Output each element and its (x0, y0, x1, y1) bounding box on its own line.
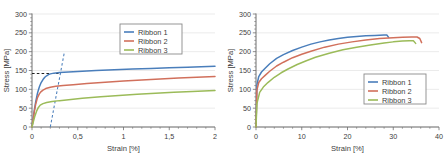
series-line-1 (32, 66, 215, 127)
series-line-2 (32, 77, 215, 127)
y-tick-label-4: 200 (239, 47, 251, 56)
y-tick-label-5: 250 (239, 28, 251, 37)
y-axis-title: Stress [MPa] (2, 49, 11, 92)
x-axis-title: Strain [%] (331, 144, 364, 153)
x-tick-label-2: 1 (122, 132, 126, 141)
stress-strain-figure: 05010015020025030000,511,52Strain [%]Str… (0, 0, 448, 163)
legend-label-2: Ribbon 2 (382, 87, 412, 96)
y-tick-label-3: 150 (239, 66, 251, 75)
legend-label-3: Ribbon 3 (138, 46, 168, 55)
y-tick-label-2: 100 (15, 85, 27, 94)
y-tick-label-0: 0 (247, 123, 251, 132)
x-tick-label-2: 20 (344, 132, 352, 141)
y-axis-title: Stress [MPa] (226, 49, 235, 92)
x-axis-title: Strain [%] (107, 144, 140, 153)
left-chart-svg: 05010015020025030000,511,52Strain [%]Str… (0, 0, 224, 163)
y-tick-label-3: 150 (15, 66, 27, 75)
chart-panel-right: 050100150200250300010203040Strain [%]Str… (224, 0, 448, 163)
y-tick-label-0: 0 (23, 123, 27, 132)
legend-label-2: Ribbon 2 (138, 37, 168, 46)
y-tick-label-5: 250 (15, 28, 27, 37)
legend-label-1: Ribbon 1 (138, 28, 168, 37)
x-tick-label-3: 30 (389, 132, 397, 141)
x-tick-label-3: 1,5 (164, 132, 174, 141)
x-tick-label-1: 0,5 (73, 132, 83, 141)
legend-label-3: Ribbon 3 (382, 96, 412, 105)
legend-label-1: Ribbon 1 (382, 78, 412, 87)
x-tick-label-0: 0 (254, 132, 258, 141)
y-tick-label-4: 200 (15, 47, 27, 56)
x-tick-label-1: 10 (298, 132, 306, 141)
right-chart-svg: 050100150200250300010203040Strain [%]Str… (224, 0, 448, 163)
series-line-3 (32, 90, 215, 127)
y-tick-label-1: 50 (19, 104, 27, 113)
legend: Ribbon 1Ribbon 2Ribbon 3 (364, 74, 426, 105)
x-tick-label-4: 2 (213, 132, 217, 141)
y-tick-label-2: 100 (239, 85, 251, 94)
y-tick-label-6: 300 (239, 10, 251, 19)
x-tick-label-0: 0 (30, 132, 34, 141)
chart-panel-left: 05010015020025030000,511,52Strain [%]Str… (0, 0, 224, 163)
y-tick-label-1: 50 (243, 104, 251, 113)
x-tick-label-4: 40 (435, 132, 443, 141)
y-tick-label-6: 300 (15, 10, 27, 19)
legend: Ribbon 1Ribbon 2Ribbon 3 (120, 24, 182, 55)
